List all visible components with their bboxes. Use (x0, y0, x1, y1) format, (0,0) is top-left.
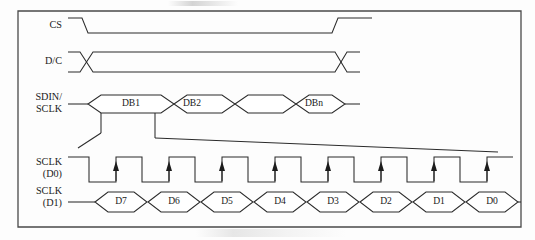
signal-label-sclk-d1-line1: SCLK (36, 185, 63, 196)
rising-edge-arrow (378, 161, 384, 181)
signal-sclk-d0-waveform (68, 157, 513, 182)
data-cell-label-4: D3 (327, 195, 339, 206)
sdin-cell-label-0: DB1 (122, 97, 140, 108)
rising-edge-arrow (113, 161, 119, 181)
data-cell-label-7: D0 (486, 195, 498, 206)
sdin-cell-label-3: DBn (305, 97, 323, 108)
data-cell-label-3: D4 (274, 195, 286, 206)
signal-label-sdin-line1: SDIN/ (35, 91, 62, 102)
timing-diagram-canvas: DB1 DB2 DBn (0, 0, 535, 240)
signal-dc-waveform (68, 52, 360, 72)
data-cell-label-1: D6 (168, 195, 180, 206)
data-cell-label-6: D1 (433, 195, 445, 206)
expansion-callout-lines (78, 113, 498, 152)
data-cell-label-2: D5 (221, 195, 233, 206)
data-cell-label-0: D7 (115, 195, 127, 206)
rising-edge-arrow (166, 161, 172, 181)
signal-sclk-d1-bus-waveform (68, 192, 521, 212)
signal-label-dc: D/C (45, 55, 62, 66)
signal-label-sclk-d1-line2: (D1) (43, 197, 62, 209)
rising-edge-arrow (431, 161, 437, 181)
signal-label-sclk-d0-line2: (D0) (43, 168, 62, 180)
rising-edge-arrow (484, 161, 490, 181)
data-cell-label-5: D2 (380, 195, 392, 206)
signal-cs-waveform (68, 18, 372, 33)
sdin-cell-label-1: DB2 (183, 97, 201, 108)
rising-edge-arrow (272, 161, 278, 181)
signal-label-cs: CS (50, 19, 63, 30)
signal-label-sdin-line2: SCLK (36, 103, 63, 114)
rising-edge-arrow (219, 161, 225, 181)
rising-edge-arrow (325, 161, 331, 181)
signal-label-sclk-d0-line1: SCLK (36, 156, 63, 167)
timing-diagram-figure: DB1 DB2 DBn (0, 0, 535, 240)
